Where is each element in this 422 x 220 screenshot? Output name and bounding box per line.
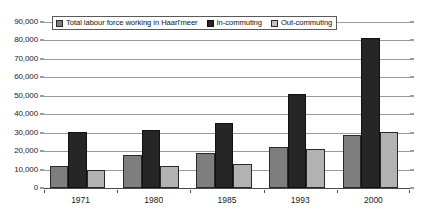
y-tick-mark-right	[410, 151, 414, 152]
x-tick-mark	[117, 190, 118, 193]
y-tick-label: 70,000	[14, 55, 38, 63]
legend-swatch-icon	[271, 20, 278, 27]
x-tick-label: 2000	[364, 195, 383, 205]
bar	[87, 170, 106, 188]
legend: Total labour force working in Haarl'meer…	[52, 16, 337, 30]
bar-chart: 010,00020,00030,00040,00050,00060,00070,…	[0, 0, 422, 220]
bar	[68, 132, 87, 188]
bars-layer	[44, 22, 410, 188]
bar	[142, 130, 161, 188]
bar	[233, 164, 252, 188]
y-tick-mark-right	[410, 77, 414, 78]
y-tick-mark-right	[410, 114, 414, 115]
y-tick-label: 60,000	[14, 73, 38, 81]
legend-entry: Total labour force working in Haarl'meer	[56, 19, 198, 27]
bar-group	[44, 22, 117, 188]
y-tick-mark-right	[410, 40, 414, 41]
y-tick-mark-right	[410, 132, 414, 133]
legend-swatch-icon	[56, 20, 63, 27]
x-axis: 19711980198519932000	[44, 190, 410, 214]
legend-entry: In-commuting	[207, 19, 262, 27]
x-tick-mark	[264, 190, 265, 193]
x-tick-label: 1971	[71, 195, 90, 205]
bar	[50, 166, 69, 188]
bar	[215, 123, 234, 188]
y-tick-label: 0	[34, 184, 38, 192]
y-tick-label: 80,000	[14, 36, 38, 44]
x-tick-label: 1980	[144, 195, 163, 205]
bar	[269, 147, 288, 188]
y-tick-label: 30,000	[14, 129, 38, 137]
y-tick-label: 10,000	[14, 166, 38, 174]
x-tick-mark	[337, 190, 338, 193]
bar-group	[337, 22, 410, 188]
legend-entry: Out-commuting	[271, 19, 332, 27]
bar-group	[264, 22, 337, 188]
bar	[306, 149, 325, 188]
bar	[361, 38, 380, 188]
bar	[380, 132, 399, 188]
y-tick-mark-right	[410, 22, 414, 23]
bar-group	[190, 22, 263, 188]
x-tick-mark	[190, 190, 191, 193]
plot-area	[44, 22, 410, 188]
legend-label: In-commuting	[217, 19, 262, 27]
x-tick-label: 1993	[291, 195, 310, 205]
y-tick-mark-right	[410, 169, 414, 170]
x-tick-mark	[409, 190, 410, 193]
y-tick-label: 50,000	[14, 92, 38, 100]
bar	[160, 166, 179, 188]
x-tick-mark	[44, 190, 45, 193]
y-tick-mark-right	[410, 188, 414, 189]
legend-swatch-icon	[207, 20, 214, 27]
legend-label: Out-commuting	[281, 19, 332, 27]
legend-label: Total labour force working in Haarl'meer	[66, 19, 198, 27]
bar	[123, 155, 142, 188]
y-tick-label: 40,000	[14, 110, 38, 118]
y-axis: 010,00020,00030,00040,00050,00060,00070,…	[0, 0, 44, 220]
y-tick-label: 90,000	[14, 18, 38, 26]
bar	[196, 153, 215, 188]
bar	[343, 135, 362, 188]
y-tick-mark-right	[410, 95, 414, 96]
y-tick-mark-right	[410, 58, 414, 59]
y-tick-label: 20,000	[14, 147, 38, 155]
bar-group	[117, 22, 190, 188]
bar	[288, 94, 307, 188]
axis-baseline	[44, 188, 410, 189]
x-tick-label: 1985	[218, 195, 237, 205]
